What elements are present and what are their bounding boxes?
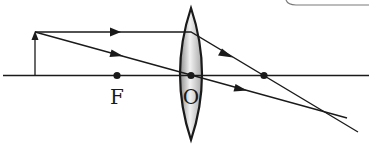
ray-arrow-icon bbox=[110, 50, 124, 58]
focus-point-right bbox=[260, 72, 267, 79]
ray-arrow-icon bbox=[110, 28, 121, 37]
object-arrow bbox=[32, 31, 39, 76]
focus-label: F bbox=[110, 85, 124, 109]
focus-point-left bbox=[113, 72, 120, 79]
lens-ray-diagram: F O bbox=[0, 0, 369, 148]
ray-arrow-icon bbox=[234, 84, 248, 92]
corner-box bbox=[286, 0, 369, 5]
optical-center-label: O bbox=[183, 85, 199, 109]
optical-center-point bbox=[187, 72, 194, 79]
